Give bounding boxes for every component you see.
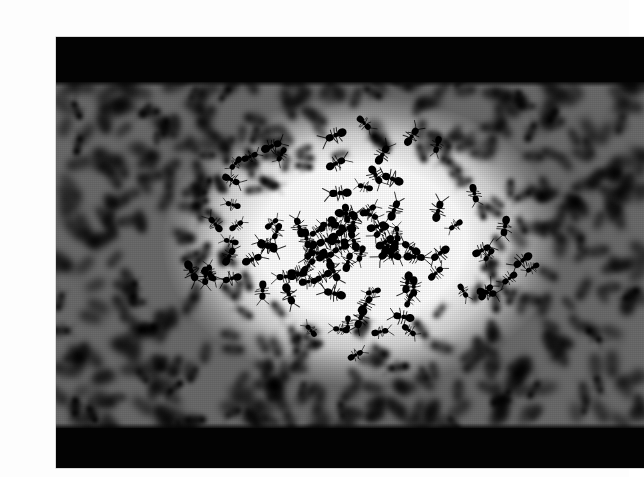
letterbox-band-top	[56, 37, 644, 82]
swarm-render-surface	[56, 81, 644, 429]
letterbox-band-bottom	[56, 428, 644, 468]
ant-swarm-image	[56, 81, 644, 429]
photograph	[56, 37, 644, 468]
